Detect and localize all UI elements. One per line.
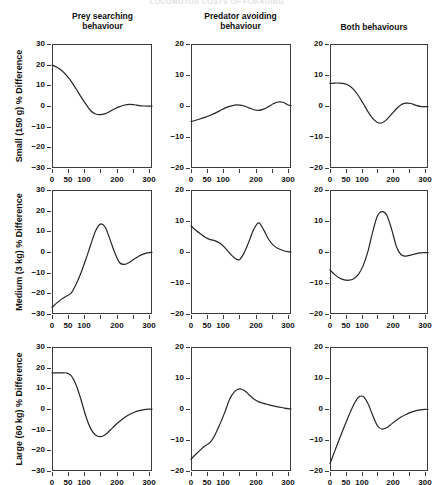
series-plot bbox=[0, 7, 434, 485]
figure-grid: Prey searchingbehaviour Predator avoidin… bbox=[0, 7, 434, 485]
running-head-text: LOCOMOTOR COSTS OF FORAGING bbox=[0, 0, 434, 6]
running-head: LOCOMOTOR COSTS OF FORAGING bbox=[0, 0, 434, 7]
data-series-line bbox=[330, 396, 428, 464]
